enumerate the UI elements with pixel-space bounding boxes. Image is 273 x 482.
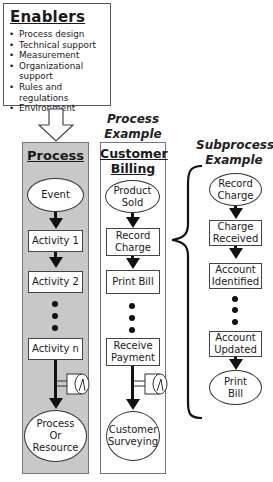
activity-2-node: Activity 2 — [28, 271, 83, 293]
arrow-down-icon — [126, 399, 140, 410]
ellipsis-dot — [232, 307, 238, 313]
activity-n-node: Activity n — [28, 338, 83, 360]
charge-received-node: Charge Received — [209, 220, 262, 246]
process-example-label: Process Example — [100, 112, 166, 142]
curly-brace-icon — [168, 164, 204, 420]
arrow-down-icon — [126, 258, 140, 269]
process-title: Process — [22, 148, 89, 163]
enabler-item: Organizational — [16, 61, 110, 72]
arrow-down-icon — [49, 257, 63, 268]
receive-payment-node: Receive Payment — [106, 338, 160, 366]
enablers-box: Enablers Process design Technical suppor… — [3, 3, 111, 106]
arrow-down-icon — [49, 218, 63, 229]
arrow-down-icon — [229, 359, 243, 370]
enabler-item-continuation: support — [16, 71, 110, 82]
ellipsis-dot — [232, 319, 238, 325]
sub-print-bill-node: Print Bill — [209, 370, 262, 405]
ellipsis-dot — [129, 303, 135, 309]
ellipsis-dot — [129, 315, 135, 321]
product-sold-node: Product Sold — [105, 180, 160, 213]
arrow-down-icon — [229, 208, 243, 219]
customer-surveying-node: Customer Surveying — [106, 411, 160, 461]
ellipsis-dot — [129, 327, 135, 333]
customer-billing-title: Customer Billing — [100, 146, 166, 176]
enablers-title: Enablers — [10, 8, 85, 26]
enabler-item: Technical support — [16, 40, 110, 51]
account-identified-node: Account Identified — [209, 263, 262, 289]
arrow-down-icon — [229, 248, 243, 259]
enabler-item: Process design — [16, 29, 110, 40]
account-updated-node: Account Updated — [209, 331, 262, 357]
arrow-down-icon — [126, 217, 140, 228]
ellipsis-dot — [52, 313, 58, 319]
record-charge-node: Record Charge — [106, 228, 160, 256]
ellipsis-dot — [52, 325, 58, 331]
gauge-icon — [56, 370, 92, 398]
enablers-list: Process design Technical support Measure… — [6, 29, 110, 114]
gauge-icon — [134, 370, 170, 398]
enabler-item: Rules and regulations — [16, 82, 110, 103]
ellipsis-dot — [52, 301, 58, 307]
event-node: Event — [27, 178, 84, 212]
activity-1-node: Activity 1 — [28, 230, 83, 252]
subprocess-example-label: Subprocess Example — [196, 138, 272, 168]
enabler-item: Measurement — [16, 50, 110, 61]
sub-record-charge-node: Record Charge — [209, 173, 262, 206]
arrow-down-icon — [49, 398, 63, 409]
hollow-down-arrow-icon — [36, 108, 76, 142]
print-bill-node: Print Bill — [106, 270, 160, 294]
ellipsis-dot — [232, 296, 238, 302]
process-or-resource-node: Process Or Resource — [24, 410, 87, 462]
